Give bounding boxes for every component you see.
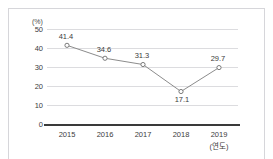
line-chart: (%) 01020304050 41.434.631.317.129.7 201… bbox=[0, 0, 273, 159]
data-point-marker-2016 bbox=[103, 56, 107, 60]
x-tick-label-2018: 2018 bbox=[173, 130, 190, 139]
x-tick-label-2015: 2015 bbox=[59, 130, 76, 139]
x-tick-label-2019: 2019 bbox=[211, 130, 228, 139]
x-tick-label-2017: 2017 bbox=[135, 130, 152, 139]
x-axis-unit-label: (연도) bbox=[210, 140, 229, 151]
data-point-label-2019: 29.7 bbox=[211, 54, 226, 63]
data-point-marker-2015 bbox=[65, 43, 69, 47]
data-point-marker-2019 bbox=[217, 65, 221, 69]
data-point-label-2015: 41.4 bbox=[59, 32, 74, 41]
chart-screenshot: (%) 01020304050 41.434.631.317.129.7 201… bbox=[0, 0, 273, 159]
data-point-marker-2017 bbox=[141, 62, 145, 66]
data-point-label-2016: 34.6 bbox=[97, 45, 112, 54]
x-tick-label-2016: 2016 bbox=[97, 130, 114, 139]
data-point-label-2018: 17.1 bbox=[175, 95, 190, 104]
data-point-marker-2018 bbox=[179, 89, 183, 93]
data-point-label-2017: 31.3 bbox=[135, 51, 150, 60]
